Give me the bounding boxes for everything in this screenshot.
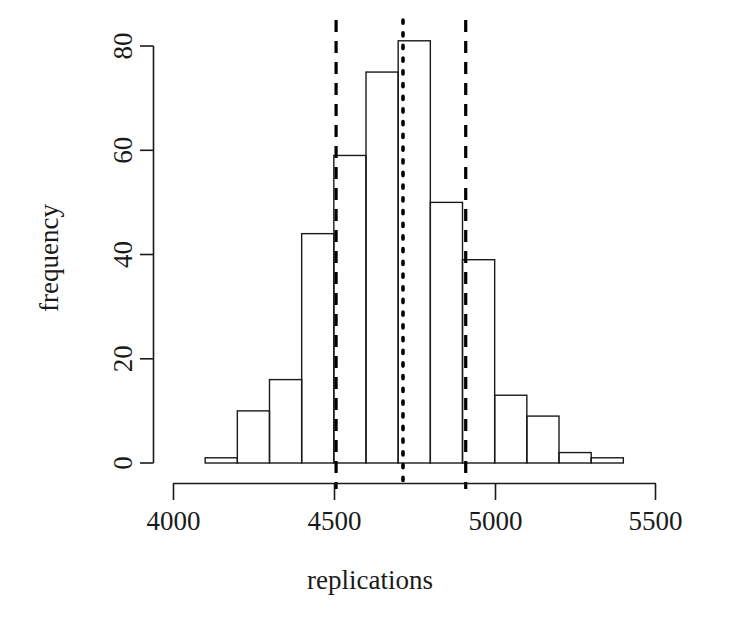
x-tick-label-4000: 4000 <box>147 506 201 536</box>
reference-lines <box>336 20 466 489</box>
bar-5000 <box>495 395 527 463</box>
bar-5100 <box>527 416 559 463</box>
y-tick-label-0: 0 <box>108 456 138 470</box>
bar-4900 <box>463 260 495 463</box>
x-tick-label-5000: 5000 <box>469 506 523 536</box>
bar-5300 <box>591 458 623 463</box>
y-axis-title: frequency <box>34 204 64 312</box>
bar-4600 <box>366 72 398 463</box>
y-tick-label-60: 60 <box>108 137 138 164</box>
bar-4300 <box>270 380 302 463</box>
bar-4500 <box>334 155 366 463</box>
y-axis: 80 60 40 20 0 <box>108 33 153 470</box>
bar-4800 <box>430 202 462 463</box>
y-tick-label-40: 40 <box>108 241 138 268</box>
bar-4200 <box>237 411 269 463</box>
x-axis: 4000 4500 5000 5500 <box>147 484 683 537</box>
histogram-figure: 80 60 40 20 0 <box>0 0 729 630</box>
plot-canvas: 80 60 40 20 0 <box>0 0 729 630</box>
y-tick-label-80: 80 <box>108 33 138 60</box>
x-axis-title: replications <box>307 565 433 595</box>
y-tick-label-20: 20 <box>108 345 138 372</box>
x-tick-label-5500: 5500 <box>629 506 683 536</box>
bar-5200 <box>559 453 591 463</box>
bar-4400 <box>302 234 334 463</box>
histogram-bars <box>205 41 623 463</box>
bar-4100 <box>205 458 237 463</box>
x-tick-label-4500: 4500 <box>308 506 362 536</box>
